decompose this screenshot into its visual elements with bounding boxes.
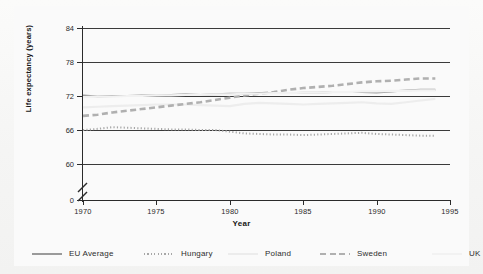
x-tick-1990 [377,200,378,205]
x-tick-1970 [83,200,84,205]
legend-swatch-sweden-icon [320,249,350,258]
y-tick-label-0: 0 [50,196,74,205]
series-line-sweden [83,78,435,115]
chart-legend: EU AverageHungaryPolandSwedenUK [32,246,472,264]
legend-item-eu-average[interactable]: EU Average [32,246,114,260]
x-tick-1975 [156,200,157,205]
legend-swatch-poland-icon [228,249,258,258]
y-tick-label-66: 66 [50,126,74,135]
x-tick-label-1975: 1975 [147,207,165,216]
legend-label-poland: Poland [265,249,291,258]
x-axis-title: Year [14,219,469,228]
x-tick-label-1970: 1970 [74,207,92,216]
series-line-uk [83,90,435,97]
x-tick-1980 [230,200,231,205]
x-axis-line [82,200,451,201]
legend-label-sweden: Sweden [357,249,387,258]
x-tick-label-1980: 1980 [221,207,239,216]
legend-label-hungary: Hungary [181,249,213,258]
x-tick-label-1990: 1990 [368,207,386,216]
legend-item-uk[interactable]: UK [432,246,481,260]
legend-swatch-hungary-icon [144,249,174,258]
chart-figure: Life expectancy (years) 06066727884 1970… [0,0,483,274]
y-tick-label-72: 72 [50,92,74,101]
x-tick-1985 [303,200,304,205]
legend-item-hungary[interactable]: Hungary [144,246,213,260]
x-tick-label-1985: 1985 [294,207,312,216]
series-line-hungary [83,127,435,136]
legend-item-poland[interactable]: Poland [228,246,291,260]
legend-label-uk: UK [469,249,481,258]
series-line-poland [83,99,435,108]
series-layer [83,28,450,200]
x-tick-label-1995: 1995 [441,207,459,216]
legend-label-eu-average: EU Average [69,249,114,258]
legend-swatch-uk-icon [432,249,462,258]
x-tick-1995 [450,200,451,205]
legend-swatch-eu-average-icon [32,249,62,258]
y-tick-label-60: 60 [50,160,74,169]
y-tick-label-84: 84 [50,24,74,33]
plot-area [83,28,450,200]
y-tick-label-78: 78 [50,58,74,67]
y-axis-title: Life expectancy (years) [24,9,33,129]
legend-item-sweden[interactable]: Sweden [320,246,387,260]
chart-card: Life expectancy (years) 06066727884 1970… [14,6,469,266]
